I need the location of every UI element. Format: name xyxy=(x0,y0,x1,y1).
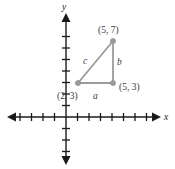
vertex-dot-5-7 xyxy=(110,38,115,43)
x-axis-label: x xyxy=(163,112,169,122)
y-axis-arrow-down xyxy=(62,156,71,165)
y-axis-label: y xyxy=(61,2,67,12)
coord-label-5-3: (5, 3) xyxy=(119,82,140,93)
graph-canvas: (5, 7) (5, 3) (2, 3) a b c x y xyxy=(0,0,175,169)
side-label-b: b xyxy=(117,57,122,67)
x-axis-arrow-left xyxy=(7,113,16,122)
vertex-dot-5-3 xyxy=(110,80,115,85)
side-label-a: a xyxy=(93,91,98,101)
side-label-c: c xyxy=(83,56,88,66)
y-axis xyxy=(62,13,71,165)
y-axis-arrow-up xyxy=(62,13,71,22)
coord-label-5-7: (5, 7) xyxy=(98,25,119,36)
coordinate-plane-figure: (5, 7) (5, 3) (2, 3) a b c x y xyxy=(0,0,175,169)
x-axis-arrow-right xyxy=(152,113,161,122)
vertex-dot-2-3 xyxy=(75,80,80,85)
coord-label-2-3: (2, 3) xyxy=(57,91,78,102)
x-axis xyxy=(7,113,161,122)
